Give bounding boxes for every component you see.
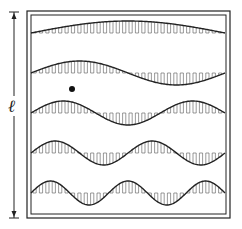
wave-mode-2: [31, 61, 225, 85]
length-label: ℓ: [8, 96, 15, 116]
wave-modes: [31, 21, 225, 205]
wave-mode-1: [31, 21, 225, 33]
arrowhead-up-icon: [12, 13, 17, 19]
wave-mode-4: [31, 141, 225, 165]
wave-mode-5: [31, 181, 225, 205]
standing-waves-diagram: [0, 0, 242, 229]
arrowhead-down-icon: [12, 211, 17, 217]
particle-dot: [69, 86, 75, 92]
wave-mode-3: [31, 101, 225, 125]
